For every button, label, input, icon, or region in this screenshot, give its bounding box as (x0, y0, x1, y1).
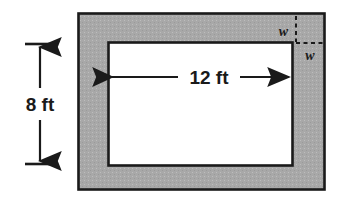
inner-region (109, 43, 293, 166)
border-width-right-label: w (305, 48, 315, 63)
figure-container: 8 ft 12 ft w w (0, 0, 344, 200)
height-dimension: 8 ft (25, 44, 55, 164)
geometry-diagram: 8 ft 12 ft w w (0, 0, 344, 200)
border-width-top-label: w (279, 24, 289, 39)
height-dimension-label: 8 ft (26, 94, 55, 115)
inner-rectangle (109, 43, 293, 166)
width-dimension-label: 12 ft (189, 67, 229, 88)
